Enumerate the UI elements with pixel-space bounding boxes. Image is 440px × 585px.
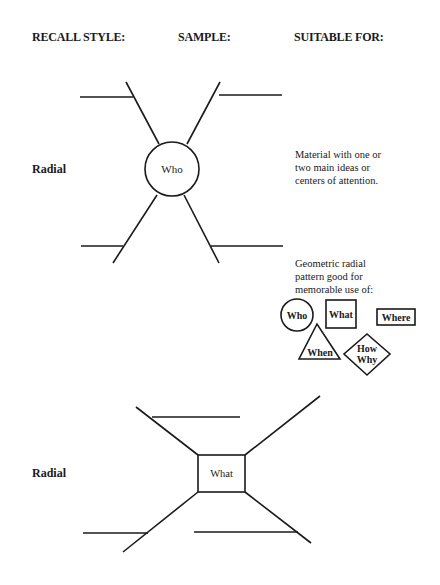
center-label-who: Who bbox=[161, 163, 183, 175]
diagram-canvas: Who Who What Where When How Why What bbox=[0, 0, 440, 585]
shape-circle-label: Who bbox=[287, 310, 308, 321]
shape-triangle-label: When bbox=[307, 347, 333, 358]
shape-diamond-label-why: Why bbox=[357, 354, 378, 365]
center-label-what: What bbox=[210, 468, 233, 479]
radial-diagram-what bbox=[83, 396, 320, 552]
shape-rectangle-label: Where bbox=[382, 312, 411, 323]
shape-square-label: What bbox=[329, 309, 354, 320]
shape-diamond-label-how: How bbox=[357, 343, 378, 354]
